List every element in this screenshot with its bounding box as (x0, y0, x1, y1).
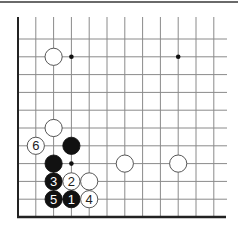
white-stone-6: 6 (27, 137, 44, 154)
stone-icon (81, 173, 98, 190)
white-stone (170, 155, 187, 172)
move-number-label: 3 (50, 174, 57, 189)
stone-icon (45, 119, 62, 136)
black-stone-1: 1 (63, 191, 80, 208)
stone-icon (116, 155, 133, 172)
black-stone-5: 5 (45, 191, 62, 208)
white-stone (116, 155, 133, 172)
white-stone (81, 173, 98, 190)
black-stone (45, 155, 62, 172)
move-number-label: 6 (32, 138, 39, 153)
black-stone (63, 137, 80, 154)
white-stone-4: 4 (81, 191, 98, 208)
move-number-label: 1 (68, 192, 75, 207)
stone-icon (63, 137, 80, 154)
white-stone (45, 48, 62, 65)
stone-icon (45, 48, 62, 65)
stone-icon (45, 155, 62, 172)
go-board: 632514 (0, 0, 240, 234)
move-number-label: 4 (86, 192, 93, 207)
black-stone-3: 3 (45, 173, 62, 190)
star-point-icon (69, 55, 74, 60)
white-stone (45, 119, 62, 136)
star-point-icon (176, 55, 181, 60)
white-stone-2: 2 (63, 173, 80, 190)
move-number-label: 2 (68, 174, 75, 189)
move-number-label: 5 (50, 192, 57, 207)
stone-icon (170, 155, 187, 172)
star-point-icon (69, 161, 74, 166)
